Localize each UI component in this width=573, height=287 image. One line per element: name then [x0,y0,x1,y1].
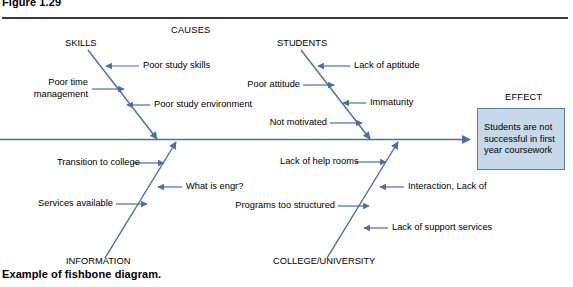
figure-caption: Example of fishbone diagram. [2,268,161,280]
cause-lack-of-support-services: Lack of support services [392,222,492,234]
cause-lack-of-help-rooms: Lack of help rooms [280,156,352,168]
cause-what-is-engr: What is engr? [186,181,243,193]
cause-lack-of-aptitude: Lack of aptitude [354,60,420,72]
cause-transition-to-college: Transition to college [57,157,130,169]
cause-poor-study-environment: Poor study environment [154,99,252,111]
cause-poor-time-management-line1: Poor time [48,77,88,87]
cause-poor-attitude: Poor attitude [240,79,300,91]
cause-poor-time-management: Poor timemanagement [22,77,88,100]
cause-interaction-lack-of: Interaction, Lack of [408,181,487,193]
cause-poor-study-skills: Poor study skills [143,60,210,72]
effect-box-text: Students are not successful in first yea… [484,122,562,157]
cause-programs-too-structured: Programs too structured [232,200,335,212]
bone-label-skills: SKILLS [65,38,97,50]
cause-poor-time-management-line2: management [34,89,88,99]
bone-label-information: INFORMATION [66,256,130,268]
bone-label-students: STUDENTS [277,38,327,50]
cause-immaturity: Immaturity [370,97,413,109]
header-effect: EFFECT [505,92,542,102]
bone-label-college-university: COLLEGE/UNIVERSITY [273,256,375,268]
header-causes: CAUSES [171,25,210,35]
cause-services-available: Services available [38,198,113,210]
cause-not-motivated: Not motivated [258,117,327,129]
